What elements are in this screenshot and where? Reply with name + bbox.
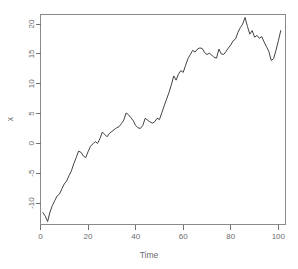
y-tick-label: 15	[27, 49, 36, 58]
x-tick-label: 0	[38, 232, 43, 241]
x-axis-title: Time	[140, 250, 159, 260]
y-tick-label: -5	[27, 169, 36, 177]
x-tick-label: 40	[131, 232, 140, 241]
x-tick-label: 80	[226, 232, 235, 241]
y-tick-label: -10	[27, 197, 36, 209]
y-tick-label: 5	[27, 111, 36, 116]
x-tick-label: 60	[179, 232, 188, 241]
y-tick-label: 0	[27, 141, 36, 146]
x-tick-label: 20	[84, 232, 93, 241]
y-tick-label: 20	[27, 19, 36, 28]
plot-canvas: -10-505101520 020406080100 Time x	[0, 0, 298, 269]
y-tick-label: 10	[27, 79, 36, 88]
chart-background	[0, 0, 298, 269]
x-tick-label: 100	[272, 232, 286, 241]
time-series-chart: -10-505101520 020406080100 Time x	[0, 0, 298, 269]
